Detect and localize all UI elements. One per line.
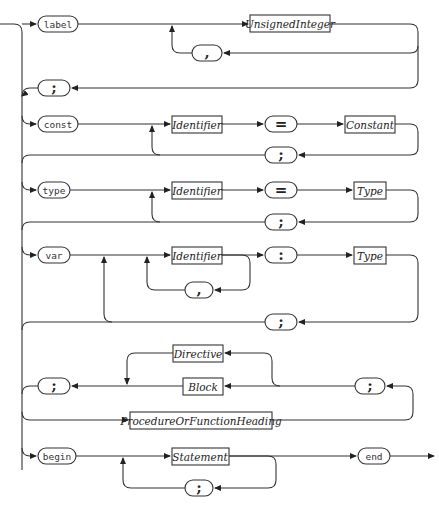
symbol-semicolon-statement-text: ; — [196, 479, 202, 497]
symbol-equals-text: = — [275, 115, 288, 133]
symbol-equals-text: = — [275, 181, 288, 199]
symbol-semicolon-var-text: ; — [278, 313, 284, 331]
keyword-var-text: var — [45, 250, 62, 261]
nonterminal-constant-text: Constant — [346, 119, 395, 131]
symbol-colon-text: : — [278, 246, 284, 264]
syntax-diagram-block: label UnsignedInteger , ; const Identifi… — [0, 0, 439, 509]
symbol-semicolon-proc-left-text: ; — [51, 377, 57, 395]
const-section: const Identifier = Constant ; — [22, 115, 418, 165]
nonterminal-identifier-text: Identifier — [171, 185, 223, 197]
type-section: type Identifier = Type ; — [22, 181, 418, 232]
symbol-semicolon-proc-right-text: ; — [367, 377, 373, 395]
main-spine — [0, 24, 22, 470]
nonterminal-statement-text: Statement — [172, 451, 228, 463]
nonterminal-block-text: Block — [187, 381, 218, 393]
nonterminal-identifier-text: Identifier — [171, 250, 223, 262]
keyword-label-text: label — [44, 19, 73, 30]
statement-section: begin Statement ; end — [22, 448, 434, 497]
nonterminal-directive-text: Directive — [173, 348, 223, 360]
label-section: label UnsignedInteger , ; — [22, 15, 418, 97]
symbol-semicolon-type-text: ; — [278, 213, 284, 231]
keyword-const-text: const — [44, 119, 73, 130]
keyword-begin-text: begin — [43, 451, 72, 462]
nonterminal-proc-func-heading-text: ProcedureOrFunctionHeading — [119, 415, 282, 427]
nonterminal-unsigned-integer-text: UnsignedInteger — [245, 18, 336, 30]
nonterminal-type-text: Type — [357, 185, 383, 197]
symbol-comma-text: , — [204, 43, 209, 61]
symbol-semicolon-text: ; — [51, 79, 57, 97]
nonterminal-type-text: Type — [357, 250, 383, 262]
keyword-type-text: type — [43, 185, 66, 196]
var-section: var Identifier , : Type ; — [22, 246, 418, 332]
nonterminal-identifier-text: Identifier — [171, 119, 223, 131]
symbol-semicolon-const-text: ; — [278, 146, 284, 164]
procedure-function-section: Directive Block ; ; ProcedureOrFunctionH… — [22, 345, 413, 429]
keyword-end-text: end — [365, 451, 382, 462]
symbol-comma-var-text: , — [196, 280, 201, 298]
